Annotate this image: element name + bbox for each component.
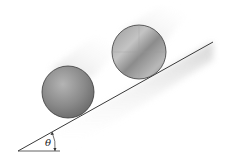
sphere xyxy=(42,66,94,118)
angle-arrow-bottom xyxy=(53,148,56,151)
angle-label: θ xyxy=(45,137,51,148)
cylinder xyxy=(112,25,166,79)
incline-diagram: θ xyxy=(0,0,225,162)
